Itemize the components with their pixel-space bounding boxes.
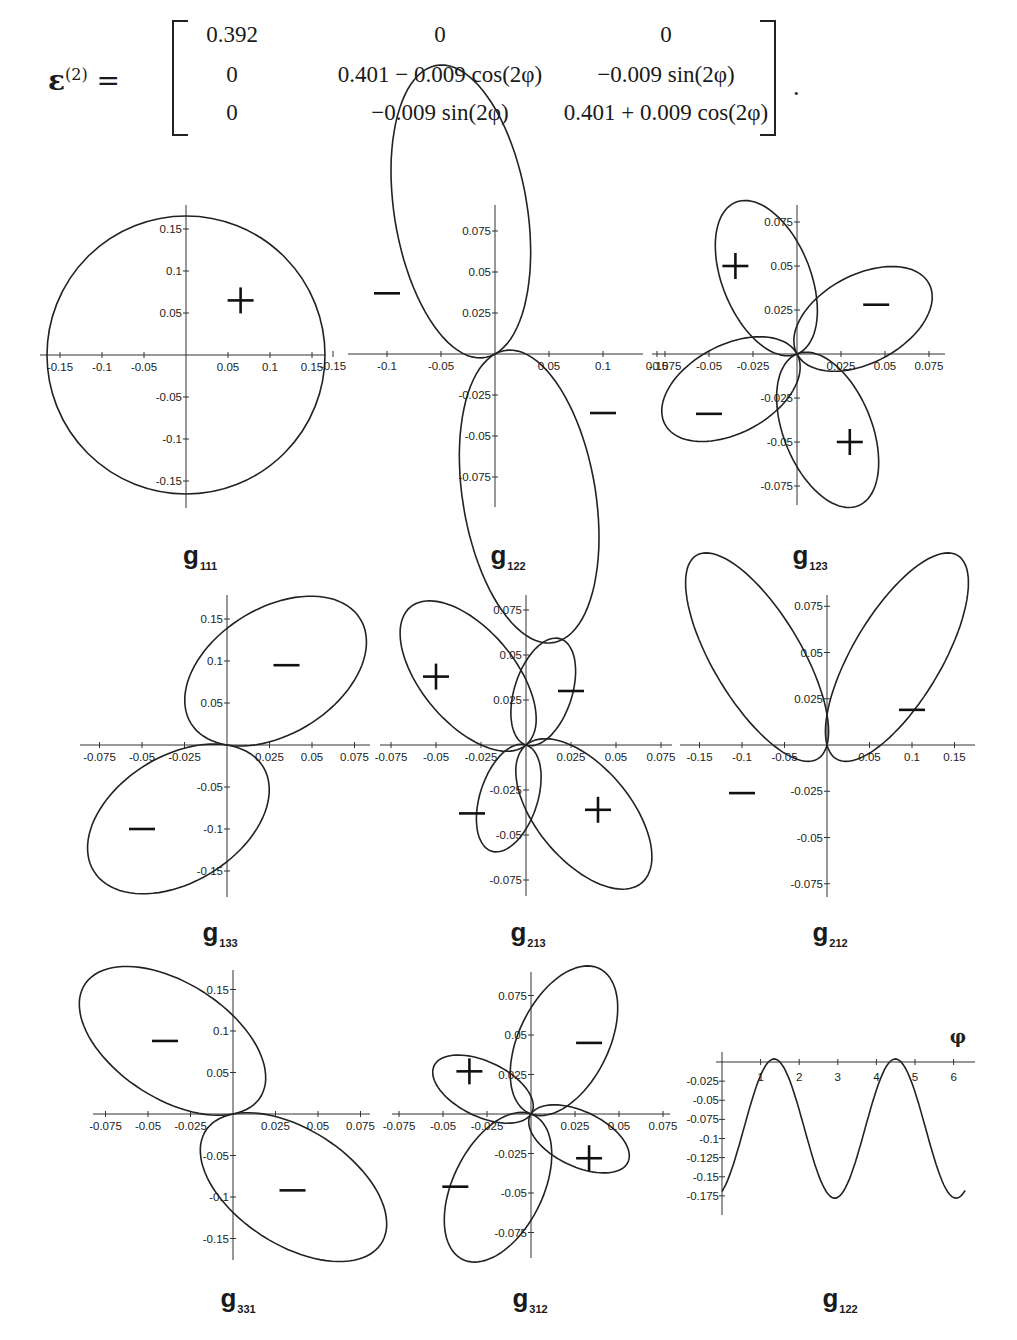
x-tick-label: -0.025 (174, 1120, 207, 1132)
x-tick-label: 0.1 (595, 360, 611, 372)
y-tick-label: -0.175 (686, 1190, 719, 1202)
x-tick-label: 0.075 (340, 751, 369, 763)
y-tick-label: -0.05 (693, 1094, 719, 1106)
y-tick-label: -0.025 (686, 1075, 719, 1087)
y-tick-label: -0.075 (458, 471, 491, 483)
x-tick-label: -0.05 (428, 360, 454, 372)
y-tick-label: 0.025 (794, 693, 823, 705)
plus-sign-icon (837, 429, 863, 455)
x-tick-label: -0.075 (89, 1120, 122, 1132)
plot-g133-3: -0.075-0.05-0.0250.0250.050.0750.150.10.… (80, 595, 370, 897)
caption-g213: g213 (510, 917, 545, 949)
plus-sign-icon (423, 664, 449, 690)
y-tick-label: 0.05 (207, 1067, 229, 1079)
plus-sign-icon (576, 1145, 602, 1171)
x-tick-label: -0.075 (83, 751, 116, 763)
caption-g122: g122 (490, 540, 525, 572)
plot-g312-7: -0.075-0.05-0.0250.0250.050.0750.0750.05… (383, 966, 678, 1262)
caption-g331: g331 (220, 1283, 255, 1315)
y-tick-label: 0.1 (213, 1025, 229, 1037)
x-tick-label: 0.075 (649, 1120, 678, 1132)
y-tick-label: -0.075 (760, 480, 793, 492)
x-tick-label: 3 (835, 1071, 841, 1083)
x-tick-label: 5 (912, 1071, 918, 1083)
y-tick-label: -0.05 (465, 430, 491, 442)
plus-sign-icon (722, 253, 748, 279)
x-tick-label: 0.05 (605, 751, 627, 763)
x-tick-label: 0.075 (915, 360, 944, 372)
x-tick-label: -0.05 (131, 361, 157, 373)
y-tick-label: 0.025 (493, 694, 522, 706)
y-tick-label: 0.1 (166, 265, 182, 277)
caption-g123: g123 (792, 540, 827, 572)
x-tick-label: -0.075 (375, 751, 408, 763)
y-tick-label: -0.05 (501, 1187, 527, 1199)
x-tick-label: 0.05 (217, 361, 239, 373)
y-tick-label: -0.075 (489, 874, 522, 886)
x-tick-label: -0.05 (430, 1120, 456, 1132)
x-tick-label: 0.025 (557, 751, 586, 763)
y-tick-label: -0.05 (797, 832, 823, 844)
x-tick-label: -0.15 (47, 361, 73, 373)
x-tick-label: -0.1 (732, 751, 752, 763)
y-tick-label: -0.025 (494, 1148, 527, 1160)
y-tick-label: 0.15 (201, 613, 223, 625)
y-tick-label: -0.05 (203, 1150, 229, 1162)
y-tick-label: -0.05 (197, 781, 223, 793)
x-tick-label: 0.075 (647, 751, 676, 763)
y-tick-label: -0.025 (458, 389, 491, 401)
x-tick-label: -0.05 (696, 360, 722, 372)
x-tick-label: -0.025 (737, 360, 770, 372)
x-tick-label: -0.05 (423, 751, 449, 763)
x-tick-label: -0.15 (320, 360, 346, 372)
y-tick-label: -0.025 (790, 785, 823, 797)
x-tick-label: -0.075 (383, 1120, 416, 1132)
x-tick-label: -0.1 (377, 360, 397, 372)
x-tick-label: -0.075 (649, 360, 682, 372)
y-tick-label: 0.05 (801, 647, 823, 659)
plot-g331-6: -0.075-0.05-0.0250.0250.050.0750.150.10.… (79, 967, 386, 1262)
y-tick-label: 0.075 (493, 604, 522, 616)
y-tick-label: 0.05 (201, 697, 223, 709)
y-tick-label: -0.1 (203, 823, 223, 835)
x-tick-label: -0.025 (168, 751, 201, 763)
x-tick-label: 0.025 (561, 1120, 590, 1132)
x-tick-label: -0.15 (686, 751, 712, 763)
y-tick-label: 0.025 (764, 304, 793, 316)
y-tick-label: 0.15 (207, 984, 229, 996)
caption-g312: g312 (512, 1283, 547, 1315)
y-tick-label: 0.075 (794, 600, 823, 612)
plot-g111-0: -0.15-0.1-0.050.050.10.150.150.10.05-0.0… (40, 205, 325, 508)
caption-g111: g111 (183, 540, 217, 572)
caption-g122-phi: g122 (822, 1283, 857, 1315)
y-tick-label: 0.075 (462, 225, 491, 237)
y-tick-label: 0.05 (160, 307, 182, 319)
x-tick-label: 6 (950, 1071, 956, 1083)
y-tick-label: -0.15 (693, 1171, 719, 1183)
plots-canvas: -0.15-0.1-0.050.050.10.150.150.10.05-0.0… (0, 0, 1017, 1340)
x-tick-label: 0.1 (262, 361, 278, 373)
plus-sign-icon (228, 287, 254, 313)
y-tick-label: 0.025 (462, 307, 491, 319)
g122-curve (722, 1059, 965, 1198)
x-tick-label: -0.05 (135, 1120, 161, 1132)
y-tick-label: 0.1 (207, 655, 223, 667)
plot-g212-5: -0.15-0.1-0.050.050.10.150.0750.050.025-… (680, 553, 975, 897)
x-tick-label: 0.05 (538, 360, 560, 372)
plot-g123-2: -0.075-0.05-0.0250.0250.050.0750.0750.05… (649, 201, 945, 508)
x-tick-label: 0.05 (301, 751, 323, 763)
y-tick-label: 0.075 (498, 990, 527, 1002)
caption-g133: g133 (202, 917, 237, 949)
x-tick-label: 0.15 (943, 751, 965, 763)
caption-g212: g212 (812, 917, 847, 949)
y-tick-label: 0.15 (160, 223, 182, 235)
y-tick-label: -0.05 (156, 391, 182, 403)
y-tick-label: -0.075 (686, 1113, 719, 1125)
plot-g213-4: -0.075-0.05-0.0250.0250.050.0750.0750.05… (375, 595, 676, 896)
x-tick-label: 2 (796, 1071, 802, 1083)
plot-g122-phi: 123456-0.025-0.05-0.075-0.1-0.125-0.15-0… (686, 1026, 975, 1215)
plus-sign-icon (456, 1058, 482, 1084)
plus-sign-icon (585, 797, 611, 823)
x-tick-label: 0.075 (346, 1120, 375, 1132)
y-tick-label: -0.1 (162, 433, 182, 445)
